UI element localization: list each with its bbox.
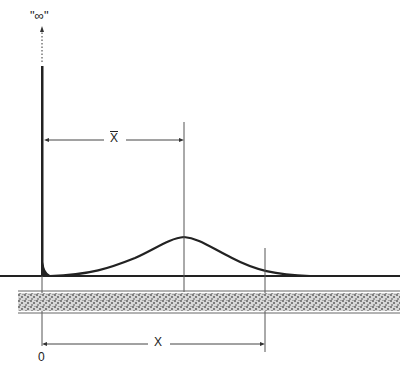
origin-label: 0 — [38, 350, 45, 364]
infinity-arrow — [40, 26, 44, 62]
infinity-label: "∞" — [30, 8, 49, 23]
stippled-column — [18, 291, 400, 313]
mean-label-text: X — [110, 131, 118, 145]
distance-label: X — [154, 335, 162, 349]
dispersion-diagram — [0, 0, 414, 379]
initial-spike — [41, 66, 52, 276]
overbar — [110, 131, 118, 132]
bell-curve — [50, 237, 310, 276]
mean-label: X — [110, 131, 118, 145]
